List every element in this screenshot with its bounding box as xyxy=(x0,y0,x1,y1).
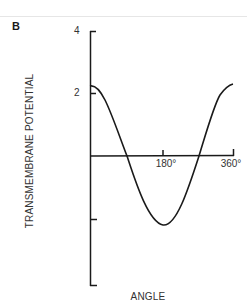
x-axis-line xyxy=(90,156,234,157)
potential-curve xyxy=(90,84,233,225)
plot-area xyxy=(0,0,247,306)
